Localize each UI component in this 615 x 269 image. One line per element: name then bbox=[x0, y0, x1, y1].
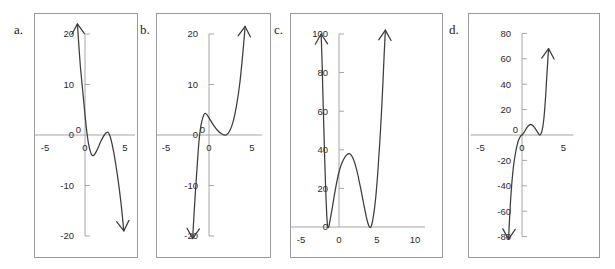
y-tick-label: -40 bbox=[497, 180, 511, 191]
curve bbox=[193, 26, 245, 238]
y-tick-label: 40 bbox=[317, 144, 328, 155]
curve bbox=[509, 49, 549, 240]
x-tick-label: -5 bbox=[476, 142, 484, 153]
figure-sheet: . . . . . . . . . a. -50520100-10-200 b.… bbox=[0, 0, 615, 269]
y-tick-label: 20 bbox=[500, 104, 511, 115]
y-tick-label: 40 bbox=[500, 79, 511, 90]
y-tick-label: -20 bbox=[497, 155, 511, 166]
y-tick-label: -20 bbox=[60, 230, 74, 241]
x-tick-label: -5 bbox=[41, 142, 49, 153]
panel-a: -50520100-10-200 bbox=[34, 13, 138, 258]
y-tick-label: 0 bbox=[193, 129, 198, 140]
x-tick-label: 5 bbox=[374, 234, 379, 245]
panel-c: -50510100806040200 bbox=[290, 13, 443, 258]
panel-letter-c: c. bbox=[274, 22, 283, 38]
x-tick-label: 0 bbox=[519, 142, 524, 153]
x-tick-label: 5 bbox=[122, 142, 127, 153]
panel-letter-a: a. bbox=[14, 22, 23, 38]
plot-c: -50510100806040200 bbox=[291, 14, 442, 257]
plot-b: -50520100-10-200 bbox=[157, 14, 270, 257]
x-tick-label: 10 bbox=[410, 234, 421, 245]
y-tick-label: 100 bbox=[312, 28, 328, 39]
panel-d: -50580604020-20-40-60-800 bbox=[468, 13, 600, 258]
x-tick-label: 5 bbox=[561, 142, 566, 153]
x-tick-label: 0 bbox=[336, 234, 341, 245]
panel-b: -50520100-10-200 bbox=[156, 13, 271, 258]
panel-letter-b: b. bbox=[140, 22, 150, 38]
plot-a: -50520100-10-200 bbox=[35, 14, 137, 257]
origin-label: 0 bbox=[76, 124, 81, 135]
y-tick-label: 80 bbox=[500, 28, 511, 39]
y-tick-label: 0 bbox=[69, 129, 74, 140]
y-tick-label: 10 bbox=[187, 79, 198, 90]
x-tick-label: -5 bbox=[162, 142, 170, 153]
plot-d: -50580604020-20-40-60-800 bbox=[469, 14, 599, 257]
x-tick-label: 0 bbox=[206, 142, 211, 153]
x-tick-label: 0 bbox=[82, 142, 87, 153]
x-tick-label: -5 bbox=[297, 234, 305, 245]
y-tick-label: 60 bbox=[500, 53, 511, 64]
y-tick-label: 20 bbox=[187, 28, 198, 39]
y-tick-label: 10 bbox=[63, 79, 74, 90]
curve bbox=[321, 30, 385, 228]
y-tick-label: -10 bbox=[60, 180, 74, 191]
panel-letter-d: d. bbox=[449, 22, 459, 38]
curve bbox=[77, 24, 123, 231]
y-tick-label: -60 bbox=[497, 206, 511, 217]
origin-label: 0 bbox=[513, 124, 518, 135]
x-tick-label: 5 bbox=[249, 142, 254, 153]
cropped-text-fragment: . . . . . . . . . bbox=[150, 0, 480, 7]
